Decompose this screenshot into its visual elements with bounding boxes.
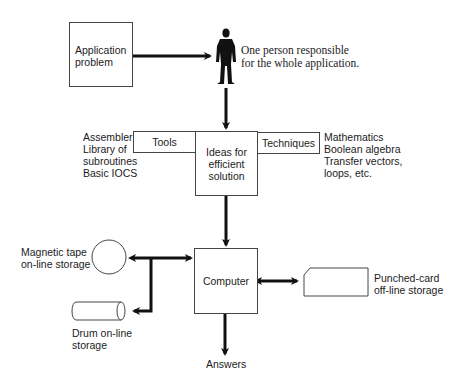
tools-list-item: Assembler bbox=[83, 131, 137, 143]
tools-list-item: Library of bbox=[83, 143, 137, 155]
magnetic-tape-label: Magnetic tape on-line storage bbox=[21, 246, 90, 270]
computer-box: Computer bbox=[194, 248, 258, 314]
drum-line2: storage bbox=[72, 339, 132, 351]
techniques-list: Mathematics Boolean algebra Transfer vec… bbox=[324, 131, 402, 179]
computer-label: Computer bbox=[203, 275, 249, 287]
ideas-line1: Ideas for bbox=[206, 146, 247, 158]
application-problem-box: Application problem bbox=[69, 22, 133, 87]
person-icon bbox=[216, 29, 236, 85]
techniques-box: Techniques bbox=[257, 132, 320, 154]
ideas-box: Ideas for efficient solution bbox=[195, 131, 258, 196]
person-caption-line2: for the whole application. bbox=[241, 57, 359, 70]
magnetic-tape-icon bbox=[92, 240, 126, 274]
application-problem-label: Application problem bbox=[75, 44, 126, 68]
punched-card-icon bbox=[304, 268, 368, 296]
ideas-line2: efficient bbox=[206, 158, 247, 170]
magnetic-tape-line1: Magnetic tape bbox=[21, 246, 90, 258]
techniques-label: Techniques bbox=[262, 137, 315, 149]
tools-list-item: subroutines bbox=[83, 155, 137, 167]
ideas-line3: solution bbox=[206, 170, 247, 182]
drum-icon bbox=[72, 302, 125, 320]
arrow-branch-drum bbox=[134, 258, 151, 311]
application-problem-line2: problem bbox=[75, 56, 126, 68]
techniques-list-item: Mathematics bbox=[324, 131, 402, 143]
person-caption-line1: One person responsible bbox=[241, 44, 359, 57]
punched-card-line2: off-line storage bbox=[374, 284, 443, 296]
techniques-list-item: loops, etc. bbox=[324, 167, 402, 179]
tools-box: Tools bbox=[133, 131, 196, 153]
ideas-label: Ideas for efficient solution bbox=[206, 146, 247, 182]
tools-list-item: Basic IOCS bbox=[83, 167, 137, 179]
tools-list: Assembler Library of subroutines Basic I… bbox=[83, 131, 137, 179]
drum-label: Drum on-line storage bbox=[72, 327, 132, 351]
magnetic-tape-line2: on-line storage bbox=[21, 258, 90, 270]
techniques-list-item: Transfer vectors, bbox=[324, 155, 402, 167]
application-problem-line1: Application bbox=[75, 44, 126, 56]
punched-card-line1: Punched-card bbox=[374, 272, 443, 284]
punched-card-label: Punched-card off-line storage bbox=[374, 272, 443, 296]
person-caption: One person responsible for the whole app… bbox=[241, 44, 359, 70]
techniques-list-item: Boolean algebra bbox=[324, 143, 402, 155]
tools-label: Tools bbox=[152, 136, 177, 148]
answers-label: Answers bbox=[206, 358, 246, 370]
drum-line1: Drum on-line bbox=[72, 327, 132, 339]
